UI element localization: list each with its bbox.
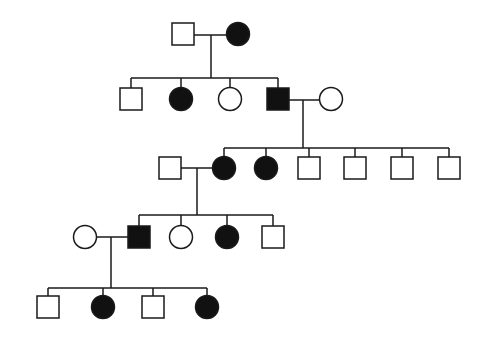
unaffected-female-ii-3 xyxy=(219,88,242,111)
affected-male-iv-2 xyxy=(128,226,150,248)
unaffected-male-v-3 xyxy=(142,296,164,318)
unaffected-male-iii-4 xyxy=(298,157,320,179)
unaffected-male-iii-7 xyxy=(438,157,460,179)
unaffected-male-iv-5 xyxy=(262,226,284,248)
unaffected-male-ii-1 xyxy=(120,88,142,110)
affected-female-iii-2 xyxy=(213,157,236,180)
unaffected-female-ii-5 xyxy=(320,88,343,111)
pedigree-chart xyxy=(0,0,493,351)
affected-male-ii-4 xyxy=(267,88,289,110)
affected-female-iii-3 xyxy=(255,157,278,180)
affected-female-v-2 xyxy=(92,296,115,319)
affected-female-ii-2 xyxy=(170,88,193,111)
unaffected-male-iii-6 xyxy=(391,157,413,179)
unaffected-female-iv-1 xyxy=(74,226,97,249)
affected-female-i-2 xyxy=(227,23,250,46)
unaffected-male-iii-5 xyxy=(344,157,366,179)
affected-female-iv-4 xyxy=(216,226,239,249)
pedigree-diagram xyxy=(0,0,493,351)
affected-female-v-4 xyxy=(196,296,219,319)
unaffected-male-iii-1 xyxy=(159,157,181,179)
unaffected-male-v-1 xyxy=(37,296,59,318)
unaffected-male-i-1 xyxy=(172,23,194,45)
unaffected-female-iv-3 xyxy=(170,226,193,249)
